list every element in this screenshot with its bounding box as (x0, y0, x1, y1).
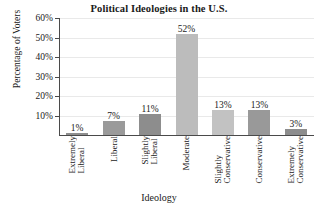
x-axis-title: Ideology (0, 192, 318, 203)
y-tick-label: 60% (36, 13, 53, 23)
x-tick-label-inner: ExtremelyLiberal (68, 136, 86, 174)
plot-area: 10%20%30%40%50%60% 1%7%11%52%13%13%3% (59, 18, 314, 135)
x-tick-label-inner: SlightlyConservative (214, 136, 232, 184)
y-tick-label: 30% (36, 72, 53, 82)
x-tick-label: SlightlyConservative (205, 136, 241, 192)
x-tick-label-inner: Liberal (109, 136, 118, 162)
bar: 7% (103, 121, 125, 135)
bar-value-label: 7% (107, 111, 120, 121)
bar: 11% (139, 114, 161, 135)
x-tick-label-line: Conservative (223, 136, 232, 184)
y-tick-mark (55, 57, 59, 58)
bar: 52% (176, 34, 198, 135)
y-axis-line (59, 18, 60, 135)
gridline (59, 18, 314, 19)
x-tick-label: Conservative (241, 136, 277, 192)
x-tick-label: ExtremelyLiberal (59, 136, 95, 192)
bar: 13% (248, 110, 270, 135)
y-tick-mark (55, 18, 59, 19)
y-tick-mark (55, 38, 59, 39)
x-tick-label-inner: Conservative (255, 136, 264, 184)
y-tick-label: 40% (36, 52, 53, 62)
x-tick-label-line: Conservative (255, 136, 264, 184)
x-tick-label-line: Liberal (109, 136, 118, 162)
y-tick-label: 10% (36, 111, 53, 121)
y-tick-label: 50% (36, 33, 53, 43)
x-tick-label-line: Conservative (296, 136, 305, 184)
bar: 3% (285, 129, 307, 135)
x-tick-label-inner: ExtremelyConservative (287, 136, 305, 184)
bar-value-label: 3% (289, 119, 302, 129)
y-tick-mark (55, 96, 59, 97)
bar-value-label: 52% (178, 24, 195, 34)
x-axis-tick-labels: ExtremelyLiberalLiberalSlightlyLiberalMo… (59, 136, 314, 192)
bar: 13% (212, 110, 234, 135)
x-tick-label: SlightlyLiberal (132, 136, 168, 192)
x-tick-label: Liberal (95, 136, 131, 192)
x-tick-label-line: Liberal (150, 136, 159, 165)
x-tick-label-inner: Moderate (182, 136, 191, 170)
x-tick-label-inner: SlightlyLiberal (141, 136, 159, 165)
bar-value-label: 1% (71, 123, 84, 133)
bar-value-label: 11% (142, 104, 159, 114)
y-tick-mark (55, 116, 59, 117)
bar-chart-figure: Political Ideologies in the U.S. Percent… (0, 0, 318, 210)
y-axis-title: Percentage of Voters (12, 1, 22, 97)
x-tick-label: ExtremelyConservative (278, 136, 314, 192)
bar-value-label: 13% (214, 100, 231, 110)
y-tick-label: 20% (36, 91, 53, 101)
x-tick-label-line: Liberal (77, 136, 86, 174)
y-tick-mark (55, 77, 59, 78)
bar-value-label: 13% (251, 100, 268, 110)
x-tick-label-line: Moderate (182, 136, 191, 170)
x-tick-label: Moderate (168, 136, 204, 192)
